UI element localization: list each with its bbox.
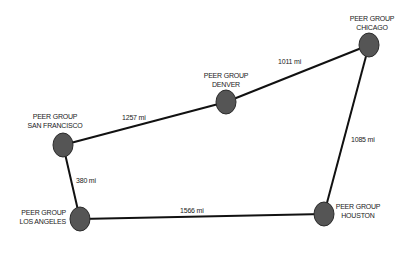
node-denver[interactable] (216, 90, 236, 114)
label-line2: SAN FRANCISCO (20, 121, 90, 130)
edge-chicago-houston (324, 45, 369, 214)
label-line1: PEER GROUP (333, 202, 383, 211)
label-line2: CHICAGO (347, 23, 397, 32)
node-san-francisco[interactable] (53, 133, 73, 157)
label-line1: PEER GROUP (200, 71, 252, 80)
label-san-francisco: PEER GROUP SAN FRANCISCO (20, 112, 90, 130)
label-line1: PEER GROUP (14, 208, 66, 217)
label-line2: HOUSTON (333, 211, 383, 220)
label-los-angeles: PEER GROUP LOS ANGELES (14, 208, 66, 226)
distance-denver-chicago: 1011 mi (278, 58, 301, 65)
distance-chicago-houston: 1085 mi (351, 136, 375, 143)
node-los-angeles[interactable] (70, 207, 90, 231)
label-chicago: PEER GROUP CHICAGO (347, 14, 397, 32)
distance-la-houston: 1566 mi (180, 207, 204, 214)
label-line2: LOS ANGELES (14, 217, 66, 226)
label-line1: PEER GROUP (347, 14, 397, 23)
node-chicago[interactable] (359, 33, 379, 57)
distance-sf-la: 380 mi (76, 177, 96, 184)
node-houston[interactable] (314, 202, 334, 226)
distance-sf-denver: 1257 mi (122, 114, 146, 121)
label-houston: PEER GROUP HOUSTON (333, 202, 383, 220)
edge-la-houston (80, 214, 324, 219)
label-line1: PEER GROUP (20, 112, 90, 121)
label-line2: DENVER (200, 80, 252, 89)
label-denver: PEER GROUP DENVER (200, 71, 252, 89)
